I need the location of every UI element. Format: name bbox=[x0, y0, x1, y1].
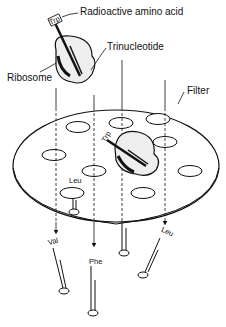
label-filter: Filter bbox=[187, 86, 209, 96]
label-ribosome: Ribosome bbox=[7, 73, 52, 83]
trna-val bbox=[53, 248, 69, 294]
filter-binding-assay-diagram: Radioactive amino acid Trinucleotide Rib… bbox=[0, 0, 226, 327]
trna-unlabeled bbox=[119, 222, 129, 256]
label-phe: Phe bbox=[89, 258, 102, 266]
label-leu-filter: Leu bbox=[69, 177, 82, 185]
label-trinucleotide: Trinucleotide bbox=[107, 42, 164, 52]
arrows bbox=[56, 222, 165, 245]
trna-phe bbox=[88, 266, 98, 316]
trna-leu-right bbox=[138, 238, 160, 278]
label-radioactive-amino-acid: Radioactive amino acid bbox=[80, 7, 183, 17]
filter-disc bbox=[13, 110, 219, 224]
